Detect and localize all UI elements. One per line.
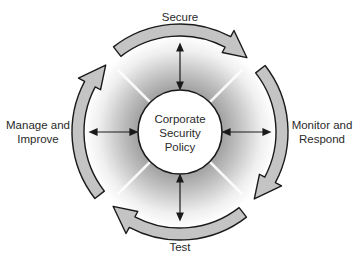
center-label-line2: Security — [140, 126, 220, 140]
stage-label-test: Test — [160, 240, 200, 254]
stage-label-monitor-line2: Respond — [286, 132, 358, 146]
stage-label-secure: Secure — [155, 10, 205, 24]
stage-label-secure-line: Secure — [155, 10, 205, 24]
center-policy-label: Corporate Security Policy — [140, 112, 220, 154]
stage-label-manage-line2: Improve — [0, 132, 76, 146]
stage-label-manage-line1: Manage and — [0, 118, 76, 132]
center-label-line1: Corporate — [140, 112, 220, 126]
center-label-line3: Policy — [140, 140, 220, 154]
stage-label-monitor-line1: Monitor and — [286, 118, 358, 132]
stage-label-monitor: Monitor and Respond — [286, 118, 358, 146]
stage-label-manage: Manage and Improve — [0, 118, 76, 146]
stage-label-test-line: Test — [160, 240, 200, 254]
